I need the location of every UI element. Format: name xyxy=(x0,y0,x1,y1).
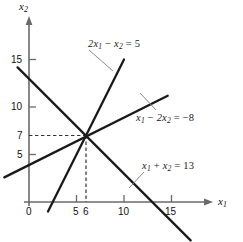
y-axis-ticks xyxy=(29,60,36,155)
x-tick-label-10: 10 xyxy=(118,206,129,217)
equation-label-x1-plus-x2: x1 + x2 = 13 xyxy=(142,160,194,173)
leader-line-steep xyxy=(89,50,113,71)
y-tick-label-5: 5 xyxy=(17,149,23,160)
y-tick-label-10: 10 xyxy=(11,101,22,112)
equation-label-2x1-minus-x2: 2x1 − x2 = 5 xyxy=(88,38,140,51)
eq3-rhs: 13 xyxy=(183,160,194,171)
y-axis-label: x2 xyxy=(19,0,28,14)
x-tick-label-5: 5 xyxy=(73,206,79,217)
x-axis-label-subscript: 1 xyxy=(223,200,227,209)
x-axis-arrowhead xyxy=(204,199,213,206)
y-tick-label-15: 15 xyxy=(11,54,22,65)
y-tick-label-7: 7 xyxy=(17,130,23,141)
x-axis-label: x1 xyxy=(218,195,227,209)
figure-canvas: x2 x1 0 5 6 10 15 5 7 10 15 2x1 − x2 = 5… xyxy=(0,0,243,242)
x-axis-ticks xyxy=(77,195,172,202)
eq2-rhs: −8 xyxy=(183,112,195,123)
x-tick-label-0: 0 xyxy=(26,206,32,217)
x-tick-label-6: 6 xyxy=(83,206,89,217)
eq1-rhs: 5 xyxy=(135,38,140,49)
y-axis-label-subscript: 2 xyxy=(24,5,28,14)
y-axis-arrowhead xyxy=(26,16,33,25)
equation-label-x1-minus-2x2: x1 − 2x2 = −8 xyxy=(136,112,194,125)
x-tick-label-15: 15 xyxy=(165,206,176,217)
